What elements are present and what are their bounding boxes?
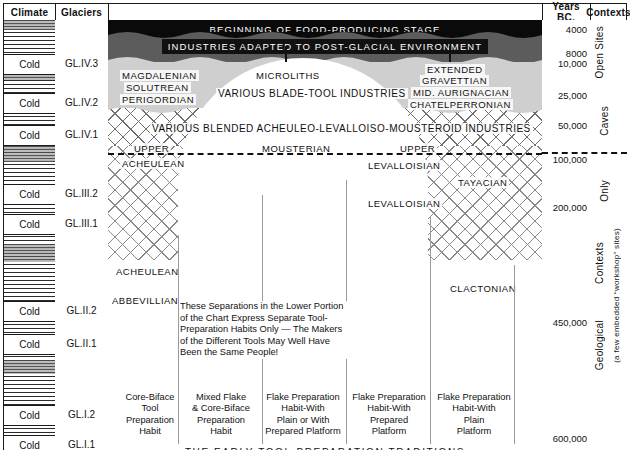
glacier-label: GL.I.1: [55, 437, 108, 451]
glacier-label: GL.II.1: [55, 336, 108, 350]
climate-cold-band: Cold: [4, 301, 55, 322]
label-chatelperronian: CHATELPERRONIAN: [408, 99, 513, 110]
post-glacial-label: INDUSTRIES ADAPTED TO POST-GLACIAL ENVIR…: [162, 39, 488, 54]
label-blade-tool-industries: VARIOUS BLADE-TOOL INDUSTRIES: [216, 88, 408, 99]
chart-bottom-title: THE EARLY TOOL-PREPARATION TRADITIONS: [108, 444, 542, 450]
climate-cold-band: Cold: [4, 334, 55, 355]
note-line: of the Chart Express Separate Tool-: [180, 313, 406, 325]
industries-panel: BEGINNING OF FOOD-PRODUCING STAGE INDUST…: [108, 20, 542, 450]
glacier-label: GL.II.2: [55, 303, 108, 317]
climate-shade: [4, 244, 55, 262]
year-label: 100,000: [553, 154, 587, 165]
microliths-stem: [285, 46, 287, 62]
context-contexts: Contexts: [594, 242, 605, 284]
year-label: 4000: [566, 24, 587, 35]
tradition-line: Flake Preparation: [432, 392, 516, 403]
tradition-column: Mixed Flake & Core-Biface Preparation Ha…: [179, 392, 263, 438]
climate-column: Cold Cold Cold Cold Cold Cold Cold Cold …: [4, 20, 55, 450]
label-gravettian: GRAVETTIAN: [420, 75, 489, 86]
glacier-label: GL.III.2: [55, 186, 108, 200]
label-microliths: MICROLITHS: [254, 70, 322, 81]
year-label: 450,000: [553, 317, 587, 328]
archaeology-time-chart: Climate Glaciers Years BC. Contexts Cold…: [0, 0, 630, 453]
label-blended-industries: VARIOUS BLENDED ACHEULEO-LEVALLOISO-MOUS…: [150, 123, 533, 134]
tradition-line: Flake Preparation: [261, 392, 345, 403]
tradition-column: Flake Preparation Habit-With Prepared Pl…: [347, 392, 431, 438]
tradition-line: Mixed Flake: [179, 392, 263, 403]
climate-cold-band: Cold: [4, 93, 55, 114]
label-mid-aurignacian: MID. AURIGNACIAN: [411, 87, 511, 98]
glacier-label: GL.IV.2: [55, 95, 108, 109]
tradition-line: Plain or With: [261, 415, 345, 426]
note-line: of the Different Tools May Well Have: [180, 336, 406, 348]
context-workshop-note: (a few embedded “workshop” sites): [612, 228, 621, 363]
label-solutrean: SOLUTREAN: [124, 82, 191, 93]
climate-cold-band: Cold: [4, 405, 55, 426]
note-line: Preparation Habits Only — The Makers: [180, 324, 406, 336]
label-levalloisian-upper: LEVALLOISIAN: [366, 160, 442, 171]
column-header-climate: Climate: [4, 4, 55, 20]
climate-shade: [4, 146, 55, 162]
year-label: 10,000: [558, 58, 587, 69]
label-perigordian: PERIGORDIAN: [120, 94, 196, 105]
glacier-label: GL.IV.1: [55, 127, 108, 141]
column-header-years: Years BC.: [542, 4, 590, 20]
glacier-label: GL.IV.3: [55, 56, 108, 70]
tradition-line: & Core-Biface: [179, 403, 263, 414]
year-label: 50,000: [558, 120, 587, 131]
label-acheulean-upper: ACHEULEAN: [120, 158, 187, 169]
tradition-line: Habit-With: [432, 403, 516, 414]
tradition-line: Platform: [432, 426, 516, 437]
label-levalloisian-lower: LEVALLOISIAN: [366, 198, 442, 209]
tradition-line: Flake Preparation: [347, 392, 431, 403]
label-abbevillian: ABBEVILLIAN: [110, 295, 180, 306]
geological-divider-dashed-right: [542, 152, 627, 154]
gravettian-stem: [449, 46, 451, 62]
note-line: These Separations in the Lower Portion: [180, 301, 406, 313]
geological-divider-dashed: [108, 153, 542, 155]
label-tayacian: TAYACIAN: [456, 177, 509, 188]
tradition-line: Habit-With: [347, 403, 431, 414]
climate-cold-band: Cold: [4, 184, 55, 205]
tradition-line: Prepared Platform: [261, 426, 345, 437]
tradition-line: Prepared: [347, 415, 431, 426]
tradition-column: Flake Preparation Habit-With Plain Platf…: [432, 392, 516, 438]
tradition-line: Platform: [347, 426, 431, 437]
year-label: 25,000: [558, 90, 587, 101]
column-header-glaciers: Glaciers: [55, 4, 108, 20]
years-column: 4000 8000 10,000 25,000 50,000 100,000 2…: [542, 20, 590, 450]
column-header-contexts: Contexts: [590, 4, 627, 20]
context-open-sites: Open Sites: [594, 26, 605, 78]
label-extended: EXTENDED: [425, 64, 485, 75]
context-caves: Caves: [599, 106, 610, 136]
year-label: 600,000: [553, 433, 587, 444]
tradition-line: Plain: [432, 415, 516, 426]
tradition-line: Habit-With: [261, 403, 345, 414]
note-line: Been the Same People!: [180, 347, 406, 359]
label-magdalenian: MAGDALENIAN: [120, 70, 199, 81]
glacier-label: GL.I.2: [55, 407, 108, 421]
glaciers-column: GL.IV.3 GL.IV.2 GL.IV.1 GL.III.2 GL.III.…: [55, 20, 108, 450]
tradition-line: Habit: [179, 426, 263, 437]
climate-shade: [4, 20, 55, 30]
explanatory-note: These Separations in the Lower Portion o…: [180, 301, 406, 359]
climate-cold-band: Cold: [4, 435, 55, 450]
post-glacial-label-wrap: INDUSTRIES ADAPTED TO POST-GLACIAL ENVIR…: [108, 38, 542, 55]
tradition-column: Flake Preparation Habit-With Plain or Wi…: [261, 392, 345, 438]
label-clactonian: CLACTONIAN: [448, 283, 518, 294]
label-acheulean-lower: ACHEULEAN: [114, 266, 181, 277]
context-geological: Geological: [594, 320, 605, 370]
year-label: 200,000: [553, 202, 587, 213]
tradition-line: Preparation: [179, 415, 263, 426]
contexts-column: Open Sites Caves Only Contexts Geologica…: [590, 20, 627, 450]
climate-shade: [4, 360, 55, 374]
climate-cold-band: Cold: [4, 125, 55, 146]
climate-cold-band: Cold: [4, 214, 55, 235]
context-only: Only: [599, 180, 610, 202]
glacier-label: GL.III.1: [55, 216, 108, 230]
climate-cold-band: Cold: [4, 54, 55, 75]
